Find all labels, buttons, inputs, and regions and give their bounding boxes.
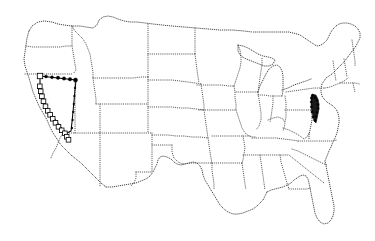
border-mn-ia [197,85,234,86]
border-or-id [72,46,76,74]
border-ky-tn [252,138,298,141]
border-nm-tx-west [131,172,136,186]
highlight-nevada-group[interactable] [37,73,77,142]
national-outline-group [24,16,360,224]
us-map-figure: United States map [0,0,375,241]
border-id-ut-wy [93,78,96,104]
border-vt-nh [344,59,347,77]
state-boundaries-group [25,24,359,190]
border-in-mi [258,95,282,96]
border-nh-me [352,40,355,67]
border-tx-ok-vert [172,145,183,164]
nevada-top-markers [37,73,77,82]
southern-border-path [106,156,267,214]
border-la-ms [242,163,246,190]
chesapeake-path [309,110,312,140]
west-coast-path [24,31,106,187]
border-sd-ia-mn [195,54,199,83]
border-al-ga [280,155,289,189]
atlantic-coast-path [252,23,360,161]
border-ar-tn-ms [242,136,245,163]
border-ks-ok [152,135,208,138]
border-nc-va [298,140,337,141]
border-wa-or [26,46,72,47]
border-mo-il [236,110,256,137]
border-wi-mi-lake [258,58,262,92]
lake-erie-path [282,79,311,90]
border-ga-sc [289,155,324,183]
gulf-coast-path [267,161,334,224]
border-ia-il [234,86,236,110]
border-mt-wy [93,77,148,78]
border-tx-la [212,163,214,190]
border-ga-fl [289,188,311,189]
border-sd-ne [148,80,201,84]
border-sc-nc [292,149,327,165]
border-pa-ny [286,88,325,92]
highlight-delmarva-group[interactable] [310,94,319,123]
border-mn-wi [234,45,241,86]
border-ny-ne-vert [333,61,336,81]
border-ks-mo [204,110,208,138]
michigan-lower-path [258,65,283,96]
border-ne-ia-mo [201,84,204,110]
border-ms-al [260,155,265,190]
michigan-upper-path [238,45,275,66]
pacific-coast-path [29,16,252,32]
border-ct-ri [353,83,355,92]
border-va-wv [283,128,309,139]
border-ne-ks [148,107,204,110]
border-ok-ar [208,138,212,163]
us-map-svg: United States map [0,0,375,241]
border-ma-ct [340,83,359,84]
border-il-in [256,92,261,130]
border-oh-pa [285,96,286,122]
nevada-west-markers [38,84,71,142]
border-id-mt [72,26,93,78]
